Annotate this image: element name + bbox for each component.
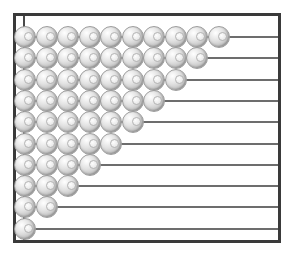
abacus-diagram: [0, 0, 294, 255]
abacus-bead[interactable]: [57, 133, 79, 155]
abacus-bead[interactable]: [14, 26, 36, 48]
abacus-bead[interactable]: [36, 47, 58, 69]
abacus-bead[interactable]: [14, 69, 36, 91]
abacus-bead[interactable]: [14, 133, 36, 155]
abacus-bead[interactable]: [143, 47, 165, 69]
abacus-bead[interactable]: [57, 90, 79, 112]
abacus-bead[interactable]: [122, 69, 144, 91]
abacus-bead[interactable]: [79, 47, 101, 69]
abacus-bead[interactable]: [79, 133, 101, 155]
abacus-bead[interactable]: [165, 47, 187, 69]
abacus-bead[interactable]: [100, 26, 122, 48]
abacus-bead[interactable]: [79, 69, 101, 91]
abacus-bead[interactable]: [57, 111, 79, 133]
abacus-bead[interactable]: [208, 26, 230, 48]
abacus-bead[interactable]: [100, 111, 122, 133]
abacus-bead[interactable]: [57, 154, 79, 176]
abacus-rail-wire: [23, 228, 278, 230]
abacus-bead[interactable]: [36, 133, 58, 155]
abacus-bead[interactable]: [100, 69, 122, 91]
abacus-bead[interactable]: [165, 26, 187, 48]
abacus-bead[interactable]: [79, 26, 101, 48]
abacus-bead[interactable]: [165, 69, 187, 91]
abacus-bead[interactable]: [122, 47, 144, 69]
abacus-bead[interactable]: [143, 26, 165, 48]
abacus-bead[interactable]: [57, 47, 79, 69]
abacus-bead[interactable]: [36, 175, 58, 197]
abacus-bead[interactable]: [14, 111, 36, 133]
abacus-rail-stack: [16, 16, 278, 240]
abacus-bead[interactable]: [79, 111, 101, 133]
abacus-bead[interactable]: [36, 26, 58, 48]
abacus-bead[interactable]: [122, 26, 144, 48]
abacus-bead[interactable]: [79, 90, 101, 112]
abacus-bead[interactable]: [57, 69, 79, 91]
abacus-bead[interactable]: [14, 196, 36, 218]
abacus-bead[interactable]: [100, 90, 122, 112]
abacus-bead[interactable]: [186, 47, 208, 69]
abacus-bead[interactable]: [186, 26, 208, 48]
abacus-bead[interactable]: [57, 26, 79, 48]
abacus-bead[interactable]: [14, 218, 36, 240]
abacus-bead[interactable]: [14, 175, 36, 197]
abacus-bead[interactable]: [122, 111, 144, 133]
abacus-frame: [13, 13, 281, 243]
abacus-bead[interactable]: [79, 154, 101, 176]
abacus-bead[interactable]: [14, 47, 36, 69]
abacus-bead[interactable]: [36, 69, 58, 91]
abacus-bead[interactable]: [36, 196, 58, 218]
abacus-bead[interactable]: [36, 111, 58, 133]
abacus-bead[interactable]: [143, 90, 165, 112]
abacus-bead[interactable]: [143, 69, 165, 91]
abacus-rail-wire: [23, 206, 278, 208]
abacus-bead[interactable]: [14, 154, 36, 176]
abacus-bead[interactable]: [100, 133, 122, 155]
abacus-bead[interactable]: [36, 154, 58, 176]
abacus-bead[interactable]: [36, 90, 58, 112]
abacus-bead[interactable]: [14, 90, 36, 112]
abacus-bead[interactable]: [100, 47, 122, 69]
abacus-bead[interactable]: [57, 175, 79, 197]
abacus-bead[interactable]: [122, 90, 144, 112]
